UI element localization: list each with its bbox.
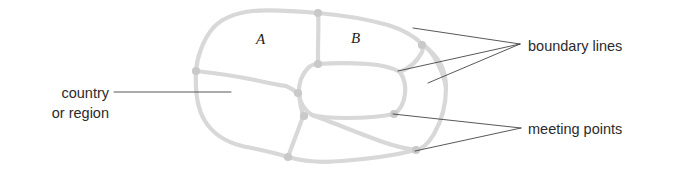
outer-border-top-right <box>318 13 422 44</box>
divider-bottom-inner-right <box>312 115 416 150</box>
divider-left-to-inner <box>196 71 286 86</box>
map-diagram-figure: A B country or region boundary lines mee… <box>0 0 693 171</box>
outer-border-bottom-right <box>288 150 416 162</box>
callout-country-line-1: country <box>0 83 109 103</box>
meeting-point-left <box>192 67 200 75</box>
leader-meeting-1 <box>393 114 521 128</box>
meeting-point-top <box>314 9 322 17</box>
meeting-point-right-bulge <box>418 41 426 49</box>
meeting-point-inner-west <box>294 89 302 97</box>
inner-region-top <box>318 63 400 72</box>
region-label-b: B <box>351 31 360 46</box>
divider-inner-west-down <box>288 94 303 157</box>
meeting-point-inner-top <box>314 60 322 68</box>
leader-boundary-1 <box>413 28 520 44</box>
callout-boundary-lines: boundary lines <box>528 36 622 56</box>
callout-meeting-points: meeting points <box>528 119 622 139</box>
inner-region-right <box>394 72 405 114</box>
callout-country-or-region: country or region <box>0 83 109 123</box>
map-boundary-lines <box>196 10 446 162</box>
map-meeting-points <box>192 9 426 161</box>
meeting-point-bottom <box>284 153 292 161</box>
region-label-a: A <box>256 32 265 47</box>
callout-country-line-2: or region <box>0 103 109 123</box>
outer-border-right-upper <box>422 44 446 88</box>
meeting-point-inner-southwest <box>300 112 308 120</box>
